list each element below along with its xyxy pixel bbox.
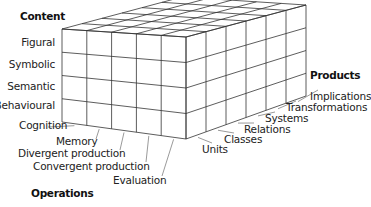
operation-label-divergent-production: Divergent production — [18, 148, 125, 159]
operation-label-convergent-production: Convergent production — [33, 161, 150, 172]
content-label-figural: Figural — [21, 37, 55, 48]
operation-label-cognition: Cognition — [19, 120, 67, 131]
operation-label-memory: Memory — [56, 136, 98, 147]
product-label-units: Units — [202, 144, 228, 155]
operations-axis-title: Operations — [31, 188, 93, 199]
product-label-classes: Classes — [224, 134, 262, 145]
product-label-relations: Relations — [244, 124, 290, 135]
product-label-implications: Implications — [310, 91, 371, 102]
content-axis-title: Content — [20, 11, 65, 22]
product-label-systems: Systems — [265, 113, 308, 124]
operation-label-evaluation: Evaluation — [113, 175, 166, 186]
content-label-symbolic: Symbolic — [9, 59, 55, 70]
content-label-behavioural: Behavioural — [0, 100, 55, 111]
product-label-transformations: Transformations — [286, 102, 367, 113]
products-axis-title: Products — [310, 70, 360, 81]
content-label-semantic: Semantic — [7, 81, 55, 92]
